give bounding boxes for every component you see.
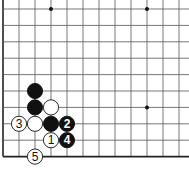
move-number-label: 1 <box>48 133 55 147</box>
white-stone <box>43 100 58 115</box>
white-stone-move-1: 1 <box>43 133 58 148</box>
star-point-icon <box>145 105 149 109</box>
black-stone-move-2: 2 <box>59 116 74 131</box>
black-stone-move-4: 4 <box>59 133 74 148</box>
white-stone-icon <box>43 100 58 115</box>
move-number-label: 4 <box>64 133 71 147</box>
stones-layer: 32145 <box>11 83 74 164</box>
black-stone-icon <box>27 83 42 98</box>
move-number-label: 2 <box>64 117 71 131</box>
black-stone-icon <box>27 100 42 115</box>
clipped-caption-fragment <box>3 166 25 170</box>
black-stone <box>27 100 42 115</box>
move-number-label: 3 <box>16 117 23 131</box>
black-stone <box>43 116 58 131</box>
star-point-icon <box>145 7 149 11</box>
go-board-diagram: 32145 <box>0 0 189 170</box>
white-stone-move-3: 3 <box>11 116 26 131</box>
white-stone-move-5: 5 <box>27 149 42 164</box>
black-stone-icon <box>43 116 58 131</box>
move-number-label: 5 <box>32 150 39 164</box>
board-grid <box>3 0 189 157</box>
black-stone <box>27 83 42 98</box>
white-stone-icon <box>27 116 42 131</box>
star-point-icon <box>49 7 53 11</box>
white-stone <box>27 116 42 131</box>
